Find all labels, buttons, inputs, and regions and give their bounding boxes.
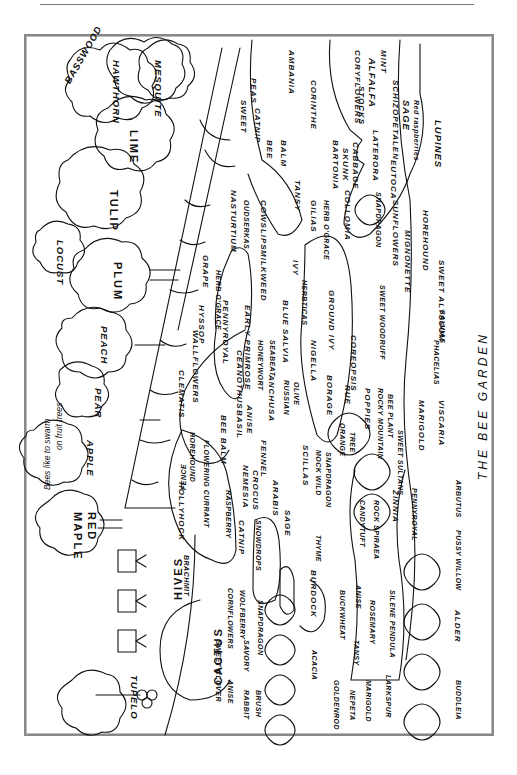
plant-label: HOLLYHOCK — [177, 482, 186, 541]
plant-label: COLLOMIA — [343, 190, 352, 241]
plant-label: OUDSERKAS — [243, 200, 250, 249]
plant-label: WOLFBERRY — [239, 590, 246, 639]
plant-label: PENNYROYAL — [411, 488, 418, 541]
plant-label: POPPIES — [363, 388, 372, 430]
plant-label: CORINTHE — [309, 80, 318, 130]
plant-label: BRUSH — [255, 690, 262, 717]
plant-label: BALM — [279, 140, 288, 167]
plant-label: MOCK WILD — [315, 450, 322, 496]
plant-label: Red raspberries — [413, 100, 420, 161]
plant-label: EARLY PRIMROSE — [243, 305, 252, 390]
plant-label: COREOPSIS — [349, 335, 358, 392]
plant-label: NEPETA — [349, 690, 356, 721]
note-line: on fruit trees — [54, 403, 64, 450]
plant-label: ARBUTUS — [455, 480, 462, 518]
plant-label: THYME — [315, 535, 322, 562]
plant-label: TANSY — [353, 640, 360, 666]
plant-label: HOREHOUND — [189, 432, 196, 482]
tree-label-peach: PEACH — [99, 326, 110, 364]
hives — [118, 550, 146, 652]
plant-label: PEAS — [249, 78, 258, 104]
plant-label: HOREHOUND — [421, 210, 430, 271]
plant-label: MILKWEED — [259, 250, 268, 302]
plant-label: CABBAGE — [351, 142, 360, 189]
plant-label: OLIVE — [293, 382, 300, 406]
plant-label: ALDER — [453, 610, 462, 643]
plant-label: BURDOCK — [309, 570, 318, 618]
tree-label-hawthorn: HAWTHORN — [111, 60, 122, 124]
plant-label: MINT — [379, 50, 388, 74]
plant-label: SWEET SULTANS — [397, 430, 404, 495]
plant-label: SNAPDRAGON — [325, 452, 332, 508]
plant-label: CROCUS — [251, 470, 260, 511]
plant-label: ROCKY MOUNTAIN — [377, 388, 384, 459]
plant-label: ANCHUSA — [267, 375, 276, 422]
plant-label: BEE — [265, 140, 274, 159]
plant-label: ORANGE — [339, 423, 346, 457]
plant-label: MARIGOLD — [365, 680, 372, 722]
plant-label: MARIGOLD — [417, 400, 426, 452]
tree-label-apple: APPLE — [85, 440, 96, 477]
plant-label: ARABIS — [271, 480, 280, 517]
plant-label: BASIL — [235, 410, 244, 439]
plant-label: VISCARIA — [437, 400, 446, 446]
plant-label: BUDDLEIA — [455, 680, 462, 720]
plant-label: SWEET — [239, 100, 248, 133]
plant-label: BEE BALM — [219, 415, 228, 465]
plant-label: LATERORA — [371, 130, 380, 182]
tree-label-plum: PLUM — [112, 262, 124, 301]
plant-label: WALLFLOWERS — [191, 330, 200, 404]
plant-label: HONEYWORT — [257, 340, 264, 391]
plant-label: NASTURTIUM — [229, 190, 238, 253]
tree-label-tulip: TULIP — [108, 190, 120, 232]
plant-label: SNAPDRAGON — [375, 192, 382, 248]
plant-label: NEMESIA — [241, 465, 250, 508]
plant-label: SWEET WOODRUFF — [379, 285, 386, 360]
plant-label: SKUNK — [341, 148, 350, 181]
plant-label: GILIAS — [309, 200, 318, 233]
plant-label: TREE — [349, 432, 356, 453]
plant-label: SNOWDROPS — [255, 520, 262, 571]
plant-label: SAGE — [283, 510, 292, 537]
tree-label-red: RED — [86, 512, 98, 541]
plant-label: PENNYROYAL — [221, 300, 230, 365]
plant-label: GROUND IVY — [327, 290, 336, 351]
plant-label: BLUE SALVIA — [281, 300, 290, 364]
plant-label: SAVORY — [243, 640, 250, 672]
plant-label: BORAGE — [325, 375, 334, 416]
plant-label: LUPINES — [433, 120, 444, 168]
plant-label: BRACHMIT — [183, 555, 190, 596]
plant-label: CANDYTUFT — [359, 500, 366, 547]
plant-label: HERB O'GRACE — [323, 200, 330, 260]
plant-label: ALFALFA — [367, 58, 378, 108]
plant-label: ROSEMARY — [369, 600, 376, 644]
plant-label: STOCKS — [357, 86, 366, 125]
plant-label: CATNIP — [253, 108, 262, 143]
plant-label: FENNEL — [259, 440, 268, 478]
plant-label: RASPBERRY — [225, 490, 232, 538]
plant-label: HERBTICAS — [301, 280, 308, 325]
tree-label-mesquite: MESQUITE — [153, 60, 164, 118]
plant-label: RUE — [343, 385, 352, 405]
plant-label: EUTOCA — [389, 160, 398, 200]
plant-label: BARTONIA — [331, 140, 340, 190]
tree-label-pear: PEAR — [93, 388, 104, 418]
plant-label: CORNFLOWERS — [227, 588, 234, 649]
plant-label: ACACIA — [311, 650, 318, 680]
plant-label: ANISE — [355, 585, 362, 609]
plant-label: CATNIP — [237, 520, 246, 555]
plant-label: IVY — [291, 260, 300, 276]
plant-label: ANISE — [245, 405, 254, 434]
plant-label: GRAPE — [201, 255, 210, 288]
tree-label-tupelo: TUPELO — [129, 675, 140, 720]
plant-label: ANISE — [227, 680, 234, 704]
tree-label-maple: MAPLE — [72, 512, 84, 561]
plant-label: CEANOTHUS — [235, 350, 244, 410]
plant-label: GOLDENROD — [333, 680, 340, 730]
plant-label: MIGNONETTE — [403, 230, 412, 293]
tree-label-locust: LOCUST — [55, 240, 66, 285]
plant-label: RUSSIAN — [283, 380, 290, 415]
plant-label: PUSSY WILLOW — [455, 530, 462, 591]
plant-label: SEABEAT — [269, 340, 276, 376]
plant-label: SALVIAS — [439, 310, 446, 343]
